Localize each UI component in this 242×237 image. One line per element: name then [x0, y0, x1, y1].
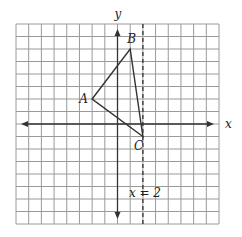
coordinate-plane: ABC x y x = 2 [0, 0, 242, 237]
vertex-label-b: B [126, 32, 136, 46]
y-axis-arrow-down [115, 212, 121, 219]
vertex-label-c: C [134, 139, 143, 153]
x-axis-arrow-right [207, 121, 214, 127]
line-equation-label: x = 2 [129, 186, 161, 200]
y-axis-arrow-up [115, 29, 121, 36]
vertex-label-a: A [78, 92, 88, 106]
x-axis-label: x [225, 117, 232, 131]
axes [21, 24, 214, 224]
x-axis-arrow-left [21, 121, 28, 127]
triangle-abc: ABC [78, 32, 143, 153]
y-axis-label: y [114, 7, 122, 21]
